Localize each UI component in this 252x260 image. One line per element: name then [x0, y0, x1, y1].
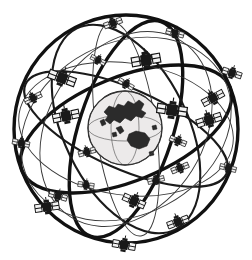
constellation-diagram [0, 0, 252, 260]
satellite-icon [48, 186, 69, 204]
earth-globe [88, 91, 162, 165]
satellite-icon [111, 234, 136, 254]
satellite-constellation-figure [0, 0, 252, 260]
satellite-icon [51, 102, 81, 126]
